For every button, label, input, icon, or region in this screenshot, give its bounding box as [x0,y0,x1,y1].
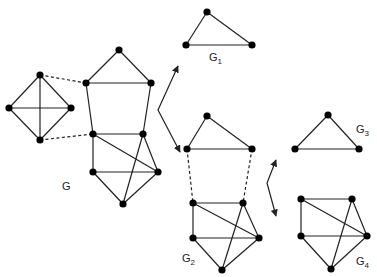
g-edge [143,83,151,134]
g4-edge [331,199,352,269]
g-vertex [154,168,161,175]
g-edge [143,134,158,172]
graph-decomposition-diagram [0,0,377,277]
g-vertex [5,104,12,111]
g1-vertex [182,41,189,48]
g-vertex [115,46,122,53]
g-edge [40,108,71,140]
edges-layer [9,12,367,270]
g-vertex [67,104,74,111]
g-vertex [82,79,89,86]
g2-vertex [203,112,210,119]
label-g2: G2 [182,252,195,267]
g-vertex [36,71,43,78]
g1-vertex [203,8,210,15]
g2-edge [207,116,252,149]
g-edge [93,134,158,172]
g1-edge [207,12,252,45]
label-g: G [62,180,71,192]
g2-vertex [255,234,262,241]
g3-edge [328,115,359,149]
g2-vertex [248,145,255,152]
g2-edge [187,116,207,149]
g3-edge [295,115,328,149]
g-vertex [147,79,154,86]
g-dashed-edge [40,134,93,140]
g1-edge [186,12,207,45]
g-edge [93,172,123,204]
g3-vertex [355,145,362,152]
g1-vertex [248,41,255,48]
g-edge [9,75,40,108]
g2-edge [243,203,259,238]
g-vertex [89,130,96,137]
g-vertex [139,130,146,137]
g2-vertex [218,266,225,273]
nodes-layer [5,8,370,273]
g2-edge [222,203,243,270]
split-arrow-1 [158,66,180,152]
arrows-layer [158,66,276,216]
label-g3: G3 [356,123,369,138]
g4-edge [301,236,331,269]
g4-vertex [327,265,334,272]
g-vertex [119,200,126,207]
g-edge [123,134,143,204]
g-vertex [36,136,43,143]
g4-vertex [363,232,370,239]
g4-edge [352,199,367,236]
g-vertex [89,168,96,175]
g4-vertex [297,195,304,202]
g4-vertex [297,232,304,239]
g2-dashed-edge [243,149,252,203]
g2-vertex [189,199,196,206]
g-edge [86,50,119,83]
split-arrow-2 [267,160,276,216]
g-edge [123,172,158,204]
g-edge [9,108,40,140]
g2-vertex [189,234,196,241]
g-edge [40,75,71,108]
g3-vertex [324,111,331,118]
label-g1: G1 [209,51,222,66]
g2-edge [193,238,222,270]
g2-vertex [183,145,190,152]
g4-edge [301,199,367,236]
g4-vertex [348,195,355,202]
g2-dashed-edge [187,149,193,203]
g2-vertex [239,199,246,206]
label-g4: G4 [356,255,369,270]
g2-edge [193,203,259,238]
g-edge [119,50,151,83]
g3-vertex [291,145,298,152]
g-edge [86,83,93,134]
